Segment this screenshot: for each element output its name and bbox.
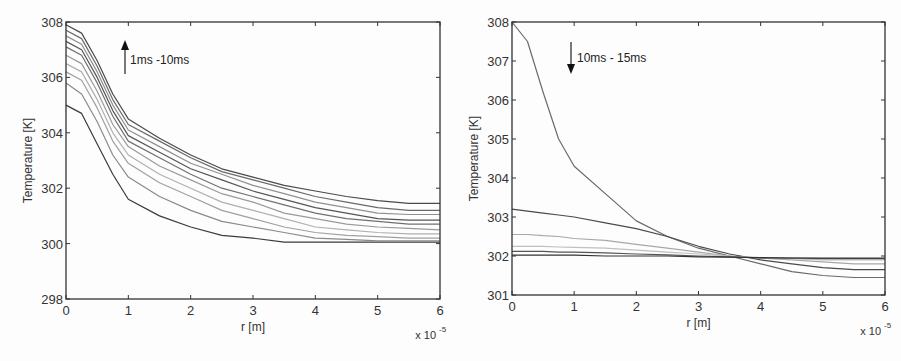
x-axis-multiplier: x 10: [415, 329, 436, 341]
x-tick-label: 4: [312, 303, 319, 318]
x-tick-label: 1: [571, 299, 578, 314]
x-tick-label: 4: [757, 299, 764, 314]
y-axis-label: Temperature [K]: [467, 116, 481, 201]
x-tick-label: 6: [436, 303, 443, 318]
series-line-11ms: [512, 209, 885, 270]
y-tick-label: 307: [487, 54, 509, 69]
x-tick-label: 2: [187, 303, 194, 318]
annotation-label: 1ms -10ms: [130, 53, 189, 67]
x-tick-label: 5: [374, 303, 381, 318]
y-axis-label: Temperature [K]: [21, 118, 35, 203]
series-line-5ms: [66, 55, 440, 230]
y-tick-label: 305: [487, 132, 509, 147]
x-axis-multiplier-exponent: -5: [439, 325, 447, 334]
left-temperature-plot: 0123456298300302304306308r [m]Temperatur…: [21, 15, 447, 341]
y-tick-label: 304: [41, 126, 63, 141]
x-tick-label: 1: [125, 303, 132, 318]
x-axis-label: r [m]: [687, 316, 711, 330]
series-line-2ms: [66, 83, 440, 241]
x-tick-label: 3: [695, 299, 702, 314]
y-tick-label: 306: [487, 93, 509, 108]
y-tick-label: 300: [41, 237, 63, 252]
chart-figure: 0123456298300302304306308r [m]Temperatur…: [0, 0, 901, 361]
y-tick-label: 303: [487, 210, 509, 225]
arrow-up-head-icon: [121, 40, 129, 50]
x-tick-label: 6: [881, 299, 888, 314]
arrow-down-head-icon: [567, 64, 575, 74]
x-tick-label: 5: [819, 299, 826, 314]
axes-box: [66, 22, 440, 299]
x-axis-multiplier-exponent: -5: [884, 321, 892, 330]
x-axis-multiplier: x 10: [860, 325, 881, 337]
x-axis-label: r [m]: [241, 320, 265, 334]
y-tick-label: 301: [487, 288, 509, 303]
annotation-label: 10ms - 15ms: [577, 51, 646, 65]
series-line-6ms: [66, 47, 440, 224]
x-tick-label: 0: [508, 299, 515, 314]
data-series-group: [66, 25, 440, 242]
y-tick-label: 306: [41, 70, 63, 85]
right-temperature-plot: 0123456301302303304305306307308r [m]Temp…: [467, 15, 892, 337]
y-tick-label: 308: [41, 15, 63, 30]
series-line-10ms: [512, 22, 885, 278]
y-tick-label: 298: [41, 292, 63, 307]
x-tick-label: 0: [62, 303, 69, 318]
data-series-group: [512, 22, 885, 278]
y-tick-label: 302: [487, 249, 509, 264]
y-tick-label: 308: [487, 15, 509, 30]
y-tick-label: 302: [41, 181, 63, 196]
x-tick-label: 3: [249, 303, 256, 318]
x-tick-label: 2: [633, 299, 640, 314]
y-tick-label: 304: [487, 171, 509, 186]
